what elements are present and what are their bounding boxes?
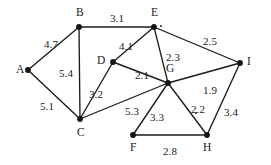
edge-weight-f-h: 2.8 — [163, 146, 177, 157]
graph-node-d — [110, 59, 116, 65]
graph-node-f — [130, 132, 136, 138]
edge-weight-g-h: 2.2 — [191, 104, 205, 115]
edge-weight-c-g: 5.3 — [125, 106, 139, 117]
graph-node-c — [77, 116, 83, 122]
edge-weight-h-i: 3.4 — [224, 107, 238, 118]
node-label-d: D — [97, 55, 106, 67]
graph-node-e — [151, 24, 157, 30]
edge-weight-a-c: 5.1 — [40, 101, 54, 112]
speck-near-gh — [195, 112, 197, 114]
node-label-e: E — [151, 7, 158, 19]
edge-weight-g-f: 3.3 — [150, 112, 164, 123]
edge-weight-g-i: 1.9 — [203, 85, 217, 96]
graph-edge-g-i — [168, 63, 240, 83]
graph-node-i — [237, 60, 243, 66]
graph-node-a — [25, 67, 31, 73]
node-label-g: G — [166, 63, 175, 75]
graph-node-h — [204, 132, 210, 138]
node-label-a: A — [16, 64, 25, 76]
node-label-f: F — [130, 142, 137, 154]
graph-edge-b-c — [79, 27, 80, 119]
graph-node-b — [76, 24, 82, 30]
edge-weight-e-i: 2.5 — [203, 36, 217, 47]
edge-weight-d-c: 3.2 — [89, 89, 103, 100]
node-label-i: I — [247, 56, 251, 68]
edge-weight-a-b: 4.7 — [44, 39, 58, 50]
edge-weight-d-e: 4.1 — [119, 41, 133, 52]
graph-edge-h-i — [207, 63, 240, 135]
edge-weight-d-g: 2.1 — [135, 70, 149, 81]
edge-weight-b-e: 3.1 — [110, 13, 124, 24]
graph-node-g — [165, 80, 171, 86]
node-label-c: C — [77, 127, 85, 139]
edge-weight-b-c: 5.4 — [59, 68, 73, 79]
node-label-h: H — [203, 142, 212, 154]
node-label-b: B — [76, 7, 84, 19]
speck-near-e — [160, 25, 162, 27]
weighted-graph-figure: 4.75.15.43.14.13.22.12.32.55.31.93.32.23… — [0, 0, 271, 165]
